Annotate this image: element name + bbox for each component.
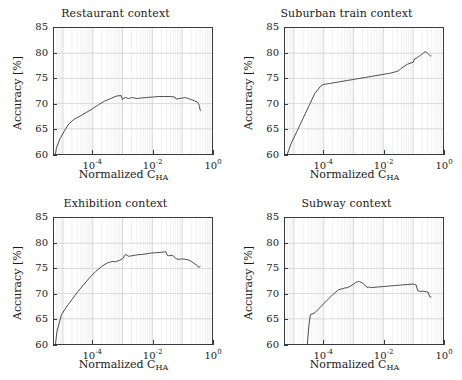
x-axis-tick-mark [153,340,154,345]
x-axis-tick-label: 10-2 [374,157,394,171]
y-axis-tick-label: 60 [24,150,48,160]
y-axis-tick-label: 80 [255,48,279,58]
y-axis-tick-mark [53,294,57,295]
y-axis-tick-label: 80 [24,48,48,58]
y-axis-tick-mark [53,243,57,244]
y-axis-tick-mark [284,243,288,244]
y-axis-label: Accuracy [%] [11,218,25,348]
y-axis-tick-mark [53,268,57,269]
figure-accuracy-vs-normalized-cha: Restaurant context Accuracy [%] Normaliz… [0,0,462,380]
y-axis-tick-mark [284,129,288,130]
y-axis-tick-label: 70 [255,99,279,109]
x-axis-tick-label: 10-4 [313,157,333,171]
y-axis-tick-label: 70 [255,289,279,299]
y-axis-label: Accuracy [%] [11,28,25,158]
plot-area [284,217,444,345]
plot-svg [285,218,443,344]
y-axis-tick-mark [53,53,57,54]
y-axis-tick-label: 80 [255,238,279,248]
y-axis-tick-mark [284,345,288,346]
subplot-title: Suburban train context [231,7,462,20]
x-axis-tick-label: 10-4 [82,157,102,171]
y-axis-tick-label: 75 [255,263,279,273]
y-axis-tick-label: 65 [255,124,279,134]
y-axis-tick-mark [53,319,57,320]
plot-svg [54,218,212,344]
y-axis-tick-label: 60 [24,340,48,350]
plot-area [53,217,213,345]
y-axis-tick-label: 80 [24,238,48,248]
y-axis-tick-mark [284,319,288,320]
y-axis-tick-label: 65 [24,124,48,134]
y-axis-tick-mark [284,294,288,295]
x-axis-tick-mark [384,150,385,155]
y-axis-tick-mark [53,78,57,79]
x-axis-tick-label: 100 [204,157,221,171]
x-axis-tick-mark [213,340,214,345]
y-axis-tick-mark [284,217,288,218]
y-axis-tick-label: 70 [24,289,48,299]
y-axis-tick-mark [53,129,57,130]
y-axis-tick-label: 85 [255,212,279,222]
y-axis-tick-mark [284,27,288,28]
y-axis-tick-mark [284,53,288,54]
x-axis-label: Normalized CHA [20,358,227,372]
x-axis-tick-label: 100 [204,347,221,361]
y-axis-tick-mark [53,104,57,105]
y-axis-tick-mark [284,155,288,156]
x-axis-tick-label: 10-4 [313,347,333,361]
x-axis-tick-mark [213,150,214,155]
y-axis-label: Accuracy [%] [242,28,256,158]
subplot-restaurant-context: Restaurant context Accuracy [%] Normaliz… [0,0,231,190]
y-axis-tick-label: 85 [255,22,279,32]
plot-svg [54,28,212,154]
y-axis-tick-label: 60 [255,150,279,160]
subplot-title: Restaurant context [0,7,231,20]
y-axis-tick-label: 75 [255,73,279,83]
subplot-suburban-train-context: Suburban train context Accuracy [%] Norm… [231,0,462,190]
x-axis-tick-label: 10-2 [374,347,394,361]
x-axis-tick-mark [92,150,93,155]
y-axis-tick-label: 70 [24,99,48,109]
x-axis-tick-label: 100 [435,347,452,361]
y-axis-tick-label: 65 [255,314,279,324]
y-axis-tick-label: 85 [24,22,48,32]
y-axis-tick-mark [284,78,288,79]
y-axis-tick-mark [53,27,57,28]
y-axis-tick-mark [53,155,57,156]
x-axis-tick-mark [92,340,93,345]
x-axis-tick-mark [323,150,324,155]
x-axis-label: Normalized CHA [251,168,458,182]
y-axis-tick-label: 60 [255,340,279,350]
plot-area [53,27,213,155]
y-axis-label: Accuracy [%] [242,218,256,348]
x-axis-label: Normalized CHA [251,358,458,372]
x-axis-tick-mark [153,150,154,155]
y-axis-tick-label: 75 [24,73,48,83]
x-axis-tick-label: 10-2 [143,157,163,171]
plot-svg [285,28,443,154]
y-axis-tick-mark [53,345,57,346]
x-axis-tick-mark [323,340,324,345]
x-axis-tick-label: 10-4 [82,347,102,361]
x-axis-label: Normalized CHA [20,168,227,182]
y-axis-tick-label: 75 [24,263,48,273]
subplot-subway-context: Subway context Accuracy [%] Normalized C… [231,190,462,380]
y-axis-tick-label: 65 [24,314,48,324]
x-axis-tick-label: 100 [435,157,452,171]
y-axis-tick-mark [284,268,288,269]
plot-area [284,27,444,155]
x-axis-tick-label: 10-2 [143,347,163,361]
x-axis-tick-mark [384,340,385,345]
subplot-exhibition-context: Exhibition context Accuracy [%] Normaliz… [0,190,231,380]
x-axis-tick-mark [444,340,445,345]
subplot-title: Subway context [231,197,462,210]
y-axis-tick-label: 85 [24,212,48,222]
x-axis-tick-mark [444,150,445,155]
y-axis-tick-mark [53,217,57,218]
y-axis-tick-mark [284,104,288,105]
subplot-title: Exhibition context [0,197,231,210]
